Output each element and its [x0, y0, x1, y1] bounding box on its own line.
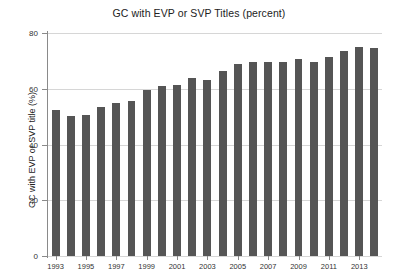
bar — [128, 101, 136, 256]
x-tick-label: 2011 — [321, 262, 337, 271]
bar-chart-figure: GC with EVP or SVP Titles (percent) GC w… — [0, 0, 398, 280]
x-tick-mark — [238, 256, 239, 260]
y-tick-mark — [42, 256, 47, 257]
x-tick-label: 2003 — [199, 262, 216, 271]
gridline — [48, 33, 382, 34]
bar — [355, 47, 363, 256]
x-tick-label: 2009 — [290, 262, 307, 271]
bar — [279, 62, 287, 256]
bar — [340, 51, 348, 256]
bar — [188, 78, 196, 256]
bar — [67, 116, 75, 256]
x-tick-mark — [359, 256, 360, 260]
bar — [112, 103, 120, 256]
x-tick-mark — [299, 256, 300, 260]
chart-title: GC with EVP or SVP Titles (percent) — [0, 7, 398, 19]
bar — [219, 71, 227, 256]
y-tick-mark — [42, 33, 47, 34]
y-axis-title: GC with EVP or SVP title (%) — [27, 50, 37, 250]
x-tick-mark — [177, 256, 178, 260]
y-tick-label: 80 — [0, 29, 38, 38]
bar — [310, 62, 318, 256]
x-tick-label: 2007 — [260, 262, 277, 271]
x-tick-label: 1999 — [138, 262, 155, 271]
bar — [82, 115, 90, 256]
x-tick-mark — [116, 256, 117, 260]
x-tick-label: 2013 — [351, 262, 368, 271]
bar — [173, 85, 181, 256]
bar — [234, 64, 242, 256]
y-tick-mark — [42, 200, 47, 201]
x-tick-label: 1997 — [108, 262, 125, 271]
x-tick-label: 1993 — [47, 262, 64, 271]
plot-area — [48, 33, 382, 256]
y-tick-mark — [42, 145, 47, 146]
bar — [295, 59, 303, 256]
bar — [158, 86, 166, 256]
bar — [264, 62, 272, 256]
y-tick-mark — [42, 89, 47, 90]
x-tick-mark — [207, 256, 208, 260]
bar — [203, 80, 211, 256]
x-tick-label: 2005 — [229, 262, 246, 271]
bar — [370, 48, 378, 256]
x-tick-mark — [86, 256, 87, 260]
x-tick-mark — [268, 256, 269, 260]
bar — [143, 90, 151, 256]
x-tick-mark — [56, 256, 57, 260]
x-tick-mark — [147, 256, 148, 260]
y-tick-label: 20 — [0, 196, 38, 205]
x-tick-label: 2001 — [169, 262, 186, 271]
y-tick-label: 60 — [0, 84, 38, 93]
gridline — [48, 256, 382, 257]
y-tick-label: 40 — [0, 140, 38, 149]
bar — [52, 110, 60, 256]
bar — [97, 107, 105, 256]
bar — [325, 57, 333, 256]
x-tick-label: 1995 — [78, 262, 95, 271]
y-tick-label: 0 — [0, 252, 38, 261]
x-tick-mark — [329, 256, 330, 260]
bar — [249, 62, 257, 256]
